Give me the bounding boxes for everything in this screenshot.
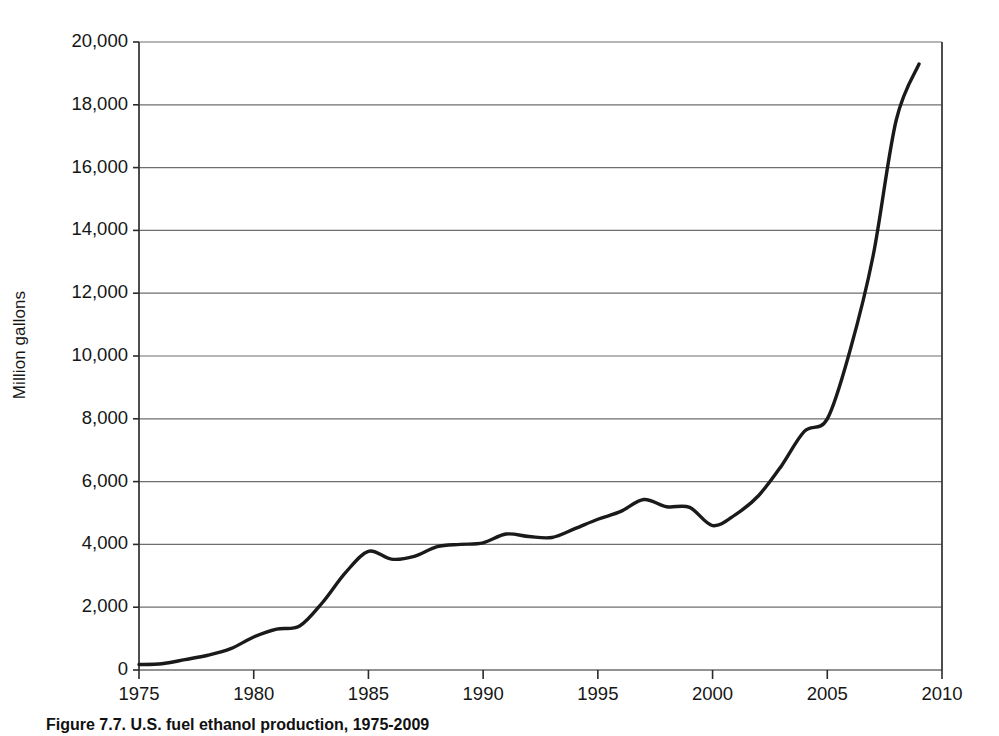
y-tick-label: 14,000 xyxy=(71,218,128,240)
x-tick-label: 1990 xyxy=(433,683,533,705)
x-tick-label: 1975 xyxy=(89,683,189,705)
y-tick-label: 2,000 xyxy=(82,595,128,617)
figure-caption: Figure 7.7. U.S. fuel ethanol production… xyxy=(46,716,429,734)
y-tick-label: 20,000 xyxy=(71,30,128,52)
x-tick-label: 1980 xyxy=(204,683,304,705)
x-tick-label: 2010 xyxy=(892,683,992,705)
y-tick-label: 0 xyxy=(118,658,128,680)
chart-figure: Million gallons 02,0004,0006,0008,00010,… xyxy=(0,0,999,736)
plot-area xyxy=(0,0,999,736)
y-tick-label: 6,000 xyxy=(82,470,128,492)
gridlines xyxy=(139,42,942,670)
y-tick-label: 18,000 xyxy=(71,93,128,115)
x-tick-label: 2000 xyxy=(663,683,763,705)
data-series xyxy=(139,64,919,665)
x-tick-label: 1985 xyxy=(318,683,418,705)
y-tick-label: 4,000 xyxy=(82,532,128,554)
y-tick-label: 10,000 xyxy=(71,344,128,366)
y-tick-label: 8,000 xyxy=(82,407,128,429)
y-tick-label: 12,000 xyxy=(71,281,128,303)
axis-tick-marks xyxy=(133,42,942,679)
series-line xyxy=(139,64,919,665)
x-tick-label: 1995 xyxy=(548,683,648,705)
y-tick-label: 16,000 xyxy=(71,156,128,178)
x-tick-label: 2005 xyxy=(777,683,877,705)
